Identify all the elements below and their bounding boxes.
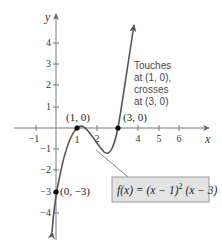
point-marker-3-0 xyxy=(115,125,120,130)
y-tick-label: −3 xyxy=(40,186,51,197)
y-axis-label: y xyxy=(44,10,51,24)
y-tick-label: 3 xyxy=(46,58,51,69)
y-tick-label: −4 xyxy=(40,207,51,218)
point-marker-0-m3 xyxy=(53,189,58,194)
x-tick-label: 5 xyxy=(157,133,162,144)
y-tick-label: −2 xyxy=(40,164,51,175)
annotation-line: at (3, 0) xyxy=(134,96,168,107)
formula-leader-line xyxy=(96,150,128,177)
point-label-0-m3: (0, −3) xyxy=(60,185,90,198)
y-tick-label: 1 xyxy=(46,101,51,112)
y-tick-label: −1 xyxy=(40,143,51,154)
annotation-line: Touches xyxy=(134,60,171,71)
point-label-1-0: (1, 0) xyxy=(66,111,90,124)
point-label-3-0: (3, 0) xyxy=(123,111,147,124)
formula-tail: (x − 3) xyxy=(183,184,218,197)
point-marker-1-0 xyxy=(74,125,79,130)
polynomial-graph: −1 1 2 4 5 6 4 3 2 1 −1 −2 −3 −4 y x (1,… xyxy=(0,0,222,244)
x-axis-label: x xyxy=(204,132,211,146)
x-tick-label: 4 xyxy=(136,133,141,144)
x-tick-label: 1 xyxy=(75,134,80,145)
x-tick-label: 6 xyxy=(177,133,182,144)
y-tick-label: 2 xyxy=(46,79,51,90)
y-tick-label: 4 xyxy=(46,37,51,48)
function-formula: f(x) = (x − 1)2 (x − 3) xyxy=(117,182,218,197)
annotation-line: crosses xyxy=(134,84,168,95)
annotation-line: at (1, 0), xyxy=(134,72,171,83)
formula-main: f(x) = (x − 1) xyxy=(117,184,179,197)
x-tick-label: −1 xyxy=(29,133,40,144)
